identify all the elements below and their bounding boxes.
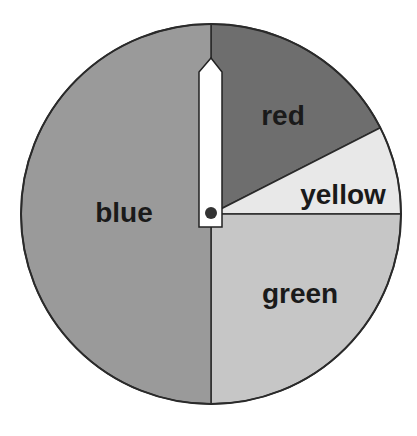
slice-green bbox=[211, 214, 401, 404]
spinner-hand[interactable] bbox=[199, 58, 222, 227]
label-blue: blue bbox=[95, 197, 153, 228]
spinner-pivot-icon bbox=[205, 207, 217, 219]
label-yellow: yellow bbox=[300, 179, 386, 210]
label-green: green bbox=[262, 278, 338, 309]
spinner-arrow-icon[interactable] bbox=[199, 58, 222, 227]
pie-chart: red yellow green blue bbox=[0, 0, 417, 436]
label-red: red bbox=[261, 100, 305, 131]
